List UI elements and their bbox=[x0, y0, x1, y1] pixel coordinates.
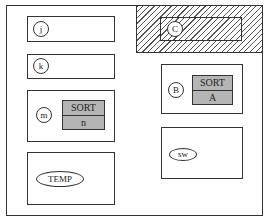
node-c-label: C bbox=[172, 25, 178, 34]
node-c: C bbox=[167, 21, 183, 37]
node-k: k bbox=[33, 58, 49, 74]
node-temp-label: TEMP bbox=[48, 175, 72, 184]
node-b-label: B bbox=[173, 86, 179, 95]
node-sw: sw bbox=[169, 148, 197, 161]
node-sw-label: sw bbox=[178, 150, 188, 159]
node-m: m bbox=[36, 107, 52, 123]
node-j-label: j bbox=[40, 25, 43, 34]
sort-header: SORT bbox=[63, 101, 104, 115]
sort-value: A bbox=[193, 90, 232, 105]
node-k-label: k bbox=[39, 62, 44, 71]
sort-header: SORT bbox=[193, 76, 232, 90]
node-m-label: m bbox=[40, 111, 47, 120]
node-b: B bbox=[168, 82, 184, 98]
sort-table-b: SORT A bbox=[192, 75, 233, 105]
node-temp: TEMP bbox=[36, 171, 84, 187]
sort-value: n bbox=[63, 115, 104, 130]
sort-table-m: SORT n bbox=[62, 100, 105, 130]
node-j: j bbox=[33, 21, 49, 37]
